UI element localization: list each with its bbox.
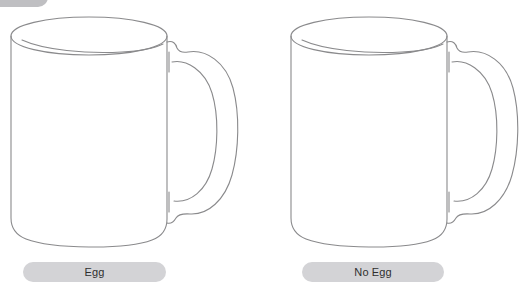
option-pill-no-egg[interactable]: No Egg	[302, 262, 444, 282]
mug-illustration	[0, 0, 263, 258]
option-card-no-egg[interactable]: No Egg	[280, 0, 526, 293]
choice-stage: Egg No Egg	[0, 0, 526, 293]
option-card-egg[interactable]: Egg	[0, 0, 263, 293]
option-label: No Egg	[354, 267, 391, 278]
option-label: Egg	[85, 267, 105, 278]
mug-illustration	[280, 0, 526, 258]
option-pill-egg[interactable]: Egg	[23, 262, 166, 282]
